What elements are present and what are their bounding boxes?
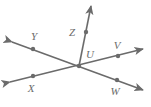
geometry-diagram: YXZUVW: [0, 0, 151, 107]
vertex-label-w: W: [110, 86, 119, 97]
vertex-label-v: V: [114, 40, 121, 51]
diagram-canvas: [0, 0, 151, 107]
point-dot-y: [31, 47, 35, 51]
point-dot-x: [31, 74, 35, 78]
lines-group: [10, 6, 143, 90]
point-dot-v: [116, 54, 120, 58]
point-dot-u: [77, 64, 81, 68]
vertex-label-y: Y: [31, 31, 37, 42]
vertex-label-u: U: [86, 49, 94, 60]
vertex-label-x: X: [28, 83, 35, 94]
point-dot-w: [115, 78, 119, 82]
point-dots-group: [31, 30, 120, 82]
point-dot-z: [84, 30, 88, 34]
vertex-label-z: Z: [69, 27, 75, 38]
